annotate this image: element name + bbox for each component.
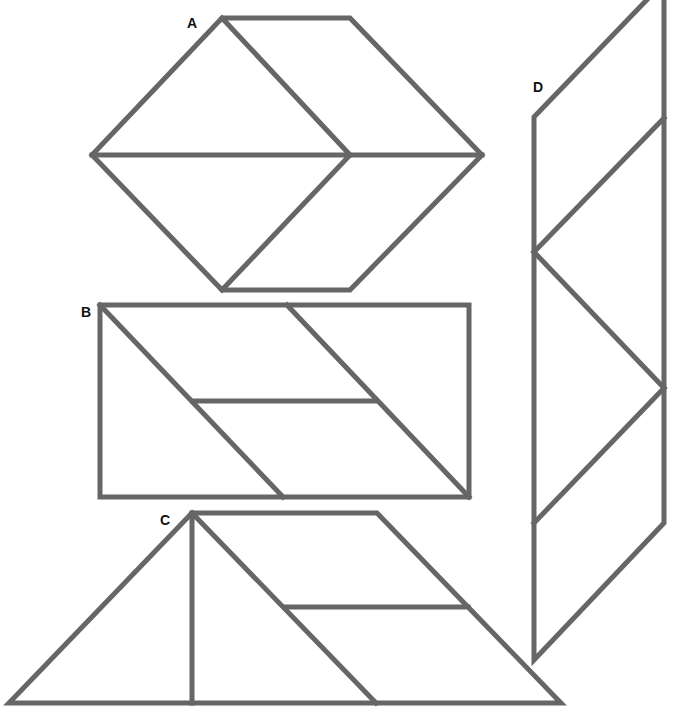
figure-d-outline xyxy=(534,0,664,660)
division-line xyxy=(222,18,350,155)
figure-c-divisions xyxy=(192,513,468,703)
figure-d: D xyxy=(533,0,664,660)
figure-d-label: D xyxy=(533,79,543,95)
division-line xyxy=(222,155,350,290)
figure-a: A xyxy=(92,15,482,290)
division-line xyxy=(534,388,664,523)
figure-d-divisions xyxy=(534,118,664,523)
figure-b-label: B xyxy=(81,304,91,320)
figure-b-divisions xyxy=(100,305,469,497)
figure-c-label: C xyxy=(160,512,170,528)
figure-b: B xyxy=(81,304,469,497)
figure-a-label: A xyxy=(187,15,197,31)
division-line xyxy=(534,118,664,252)
figure-a-divisions xyxy=(92,18,482,290)
division-line xyxy=(534,252,664,388)
tangram-diagram-canvas: A B C D xyxy=(0,0,675,720)
figure-c: C xyxy=(9,512,561,703)
